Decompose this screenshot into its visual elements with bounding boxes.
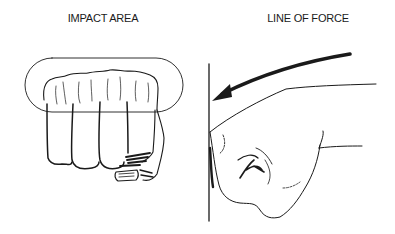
fist-front-illustration <box>25 58 183 181</box>
force-arrow-head <box>212 84 232 101</box>
impact-area-outline <box>25 58 183 112</box>
fist-side-illustration <box>209 54 376 221</box>
force-arrow-shaft <box>222 54 350 94</box>
diagram-canvas <box>0 0 395 234</box>
